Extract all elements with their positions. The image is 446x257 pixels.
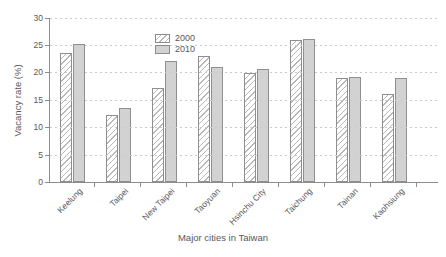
y-tick-10 [45, 127, 49, 128]
bar-2010-kaohsiung [395, 78, 407, 182]
bar-2000-taipei [106, 115, 118, 182]
y-tick-label-15: 15 [18, 95, 43, 105]
x-tick-label-taoyuan: Taoyuan [192, 186, 222, 216]
y-tick-20 [45, 72, 49, 73]
bar-2010-keelung [73, 44, 85, 182]
gridline-30 [50, 18, 438, 19]
vacancy-rate-bar-chart: Vacancy rate (%) 2000 2010 Major cities … [0, 0, 446, 257]
y-tick-label-30: 30 [18, 13, 43, 23]
x-tick-keelung [94, 183, 95, 187]
plot-area: 2000 2010 [49, 18, 438, 184]
x-tick-tainan [370, 183, 371, 187]
y-tick-25 [45, 45, 49, 46]
bar-2010-taipei [119, 108, 131, 182]
gridline-15 [50, 100, 438, 101]
gridline-5 [50, 155, 438, 156]
y-tick-label-10: 10 [18, 122, 43, 132]
gridline-20 [50, 72, 438, 73]
bar-2000-taichung [290, 40, 302, 182]
legend-label-2010: 2010 [175, 44, 195, 55]
x-tick-label-kaohsiung: Kaohsiung [371, 186, 406, 221]
y-tick-5 [45, 155, 49, 156]
gridline-25 [50, 45, 438, 46]
legend: 2000 2010 [155, 33, 195, 55]
x-tick-label-hsinchu-city: Hsinchu City [227, 186, 268, 227]
bar-2000-kaohsiung [382, 94, 394, 182]
legend-swatch-2000 [155, 34, 170, 43]
bar-2000-taoyuan [198, 56, 210, 182]
legend-swatch-2010 [155, 45, 170, 54]
x-tick-taoyuan [232, 183, 233, 187]
bar-2010-tainan [349, 77, 361, 182]
x-tick-kaohsiung [416, 183, 417, 187]
y-tick-label-25: 25 [18, 40, 43, 50]
x-tick-label-keelung: Keelung [55, 186, 84, 215]
x-tick-label-new-taipei: New Taipei [140, 186, 176, 222]
y-tick-0 [45, 182, 49, 183]
x-axis-title: Major cities in Taiwan [0, 232, 446, 243]
legend-label-2000: 2000 [175, 33, 195, 44]
y-tick-label-20: 20 [18, 67, 43, 77]
bar-2000-tainan [336, 78, 348, 182]
bar-2000-new-taipei [152, 88, 164, 182]
bar-2010-taoyuan [211, 67, 223, 182]
bar-2010-new-taipei [165, 61, 177, 182]
x-tick-label-taipei: Taipei [107, 186, 130, 209]
legend-item-2000: 2000 [155, 33, 195, 44]
x-tick-taipei [140, 183, 141, 187]
y-tick-label-0: 0 [18, 177, 43, 187]
gridline-10 [50, 127, 438, 128]
bar-2010-hsinchu-city [257, 69, 269, 182]
y-tick-label-5: 5 [18, 150, 43, 160]
x-tick-hsinchu-city [278, 183, 279, 187]
y-tick-15 [45, 100, 49, 101]
x-tick-label-taichung: Taichung [283, 186, 314, 217]
x-tick-new-taipei [186, 183, 187, 187]
x-tick-label-tainan: Tainan [335, 186, 360, 211]
bar-2010-taichung [303, 39, 315, 182]
y-tick-30 [45, 18, 49, 19]
x-tick-taichung [324, 183, 325, 187]
legend-item-2010: 2010 [155, 44, 195, 55]
